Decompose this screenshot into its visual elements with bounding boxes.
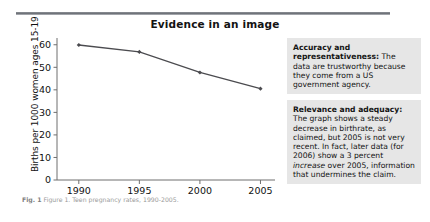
svg-text:0: 0: [45, 174, 51, 185]
svg-text:1995: 1995: [127, 185, 151, 196]
line-chart-figure: Births per 1000 women ages 15-19 0102030…: [10, 34, 282, 204]
accuracy-note: Accuracy and representativeness: The dat…: [287, 38, 421, 94]
svg-text:30: 30: [39, 107, 51, 118]
svg-text:1990: 1990: [67, 185, 91, 196]
svg-text:2000: 2000: [188, 185, 212, 196]
relevance-note: Relevance and adequacy: The graph shows …: [287, 100, 421, 184]
x-axis-ticks: [79, 180, 261, 184]
svg-text:60: 60: [39, 39, 51, 50]
svg-text:2005: 2005: [248, 185, 272, 196]
figure-caption-text: Figure 1. Teen pregnancy rates, 1990-200…: [44, 196, 179, 203]
relevance-note-emphasis: increase: [293, 161, 325, 170]
chart-plot-area: 0102030405060 1990199520002005: [10, 34, 282, 204]
y-axis-ticks: [54, 45, 58, 180]
data-series-line: [79, 45, 261, 89]
figure-caption: Fig. 1 Figure 1. Teen pregnancy rates, 1…: [22, 196, 284, 204]
y-axis-label: Births per 1000 women ages 15-19: [30, 22, 40, 172]
x-axis-tick-labels: 1990199520002005: [67, 185, 273, 196]
page-root: Evidence in an image Births per 1000 wom…: [0, 0, 430, 222]
accuracy-note-lead: Accuracy and representativeness:: [293, 43, 379, 61]
page-title: Evidence in an image: [0, 18, 430, 30]
svg-text:20: 20: [39, 129, 51, 140]
relevance-note-body-first: The graph shows a steady decrease in bir…: [293, 114, 405, 160]
svg-text:50: 50: [39, 62, 51, 73]
relevance-note-lead: Relevance and adequacy:: [293, 105, 402, 114]
svg-text:10: 10: [39, 152, 51, 163]
y-axis-tick-labels: 0102030405060: [39, 39, 51, 185]
figure-caption-label: Fig. 1: [22, 196, 42, 203]
data-series-markers: [77, 43, 263, 91]
svg-text:40: 40: [39, 84, 51, 95]
header-rule: [16, 12, 390, 15]
